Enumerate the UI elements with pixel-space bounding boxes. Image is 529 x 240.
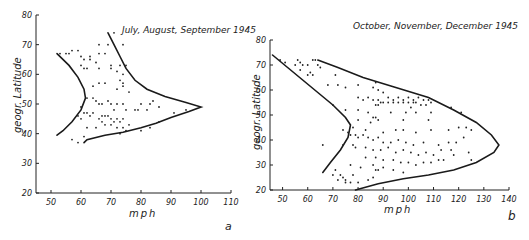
- data-point: [465, 127, 467, 129]
- data-point: [448, 142, 450, 144]
- panel-a-title: July, August, September 1945: [120, 25, 256, 35]
- data-point: [423, 162, 425, 164]
- data-point: [375, 82, 377, 84]
- data-point: [352, 144, 354, 146]
- data-point: [413, 144, 415, 146]
- data-point: [357, 182, 359, 184]
- data-point: [101, 115, 103, 117]
- data-point: [71, 50, 73, 52]
- data-point: [299, 62, 301, 64]
- data-point: [335, 169, 337, 171]
- data-point: [116, 118, 118, 120]
- data-point: [279, 59, 281, 61]
- data-point: [357, 137, 359, 139]
- data-point: [342, 177, 344, 179]
- data-point: [372, 139, 374, 141]
- data-point: [104, 53, 106, 55]
- data-point: [317, 64, 319, 66]
- data-point: [418, 97, 420, 99]
- data-point: [367, 97, 369, 99]
- data-point: [382, 132, 384, 134]
- data-point: [400, 162, 402, 164]
- data-point: [95, 62, 97, 64]
- panel-a-data-points: [59, 32, 187, 144]
- data-point: [98, 44, 100, 46]
- data-point: [392, 159, 394, 161]
- data-point: [119, 79, 121, 81]
- x-tick-label: 80: [136, 198, 146, 207]
- data-point: [80, 65, 82, 67]
- data-point: [92, 112, 94, 114]
- data-point: [83, 68, 85, 70]
- data-point: [443, 159, 445, 161]
- data-point: [80, 56, 82, 58]
- data-point: [185, 109, 187, 111]
- data-point: [122, 118, 124, 120]
- data-point: [116, 127, 118, 129]
- data-point: [89, 59, 91, 61]
- data-point: [104, 124, 106, 126]
- data-point: [83, 136, 85, 138]
- data-point: [312, 59, 314, 61]
- panel-b-title: October, November, December 1945: [353, 21, 518, 31]
- data-point: [428, 99, 430, 101]
- data-point: [402, 99, 404, 101]
- data-point: [345, 182, 347, 184]
- data-point: [110, 103, 112, 105]
- x-tick-label: 70: [328, 195, 338, 204]
- data-point: [365, 147, 367, 149]
- data-point: [455, 142, 457, 144]
- x-tick-label: 110: [426, 195, 441, 204]
- data-point: [350, 134, 352, 136]
- x-tick-label: 80: [353, 195, 363, 204]
- x-tick-label: 120: [451, 195, 466, 204]
- x-tick-label: 90: [378, 195, 388, 204]
- data-point: [468, 152, 470, 154]
- data-point: [340, 174, 342, 176]
- data-point: [352, 127, 354, 129]
- y-tick-label: 60: [22, 70, 32, 79]
- x-tick-label: 60: [76, 198, 86, 207]
- data-point: [149, 127, 151, 129]
- data-point: [382, 92, 384, 94]
- panel-b-x-label: mph: [384, 204, 412, 215]
- data-point: [128, 124, 130, 126]
- data-point: [104, 82, 106, 84]
- data-point: [104, 115, 106, 117]
- data-point: [362, 134, 364, 136]
- data-point: [337, 84, 339, 86]
- data-point: [423, 142, 425, 144]
- data-point: [107, 44, 109, 46]
- data-point: [408, 102, 410, 104]
- data-point: [110, 124, 112, 126]
- data-point: [420, 104, 422, 106]
- data-point: [89, 56, 91, 58]
- data-point: [98, 68, 100, 70]
- data-point: [377, 89, 379, 91]
- panel-b-envelope-right: [318, 60, 499, 190]
- data-point: [122, 103, 124, 105]
- data-point: [122, 82, 124, 84]
- data-point: [357, 84, 359, 86]
- y-tick-label: 70: [22, 41, 32, 50]
- data-point: [380, 149, 382, 151]
- data-point: [370, 122, 372, 124]
- data-point: [347, 132, 349, 134]
- data-point: [128, 91, 130, 93]
- data-point: [122, 127, 124, 129]
- data-point: [375, 169, 377, 171]
- data-point: [116, 71, 118, 73]
- data-point: [408, 162, 410, 164]
- data-point: [110, 68, 112, 70]
- data-point: [71, 139, 73, 141]
- data-point: [302, 64, 304, 66]
- data-point: [125, 109, 127, 111]
- data-point: [350, 182, 352, 184]
- data-point: [110, 118, 112, 120]
- data-point: [86, 97, 88, 99]
- data-point: [357, 97, 359, 99]
- data-point: [392, 99, 394, 101]
- y-tick-label: 50: [22, 100, 32, 109]
- data-point: [418, 154, 420, 156]
- data-point: [119, 133, 121, 135]
